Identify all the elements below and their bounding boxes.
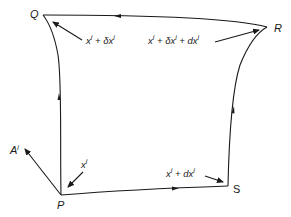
coord-label-r: xi + δxi + dxi <box>147 34 200 46</box>
vector-label-a: Ai <box>9 144 19 156</box>
parallel-transport-diagram: Q R P S Ai xi xi + δxi xi + δxi + dxi xi… <box>0 0 291 217</box>
coord-label-s: xi + dxi <box>165 167 195 179</box>
edge-q-r <box>43 15 267 27</box>
point-label-s: S <box>233 183 240 195</box>
arrow-p-s-icon <box>172 187 179 191</box>
point-label-q: Q <box>30 8 39 20</box>
coord-label-q: xi + δxi <box>85 34 115 46</box>
pointer-s-icon <box>205 176 223 182</box>
coord-label-p: xi <box>80 158 88 170</box>
point-label-r: R <box>274 22 282 34</box>
pointer-q-icon <box>53 22 82 40</box>
arrow-r-q-icon <box>114 14 121 18</box>
edge-p-s <box>61 186 228 195</box>
point-label-p: P <box>57 199 65 211</box>
vector-a-arrow <box>25 149 61 195</box>
pointer-p-icon <box>68 172 83 187</box>
edge-p-q <box>43 15 61 195</box>
